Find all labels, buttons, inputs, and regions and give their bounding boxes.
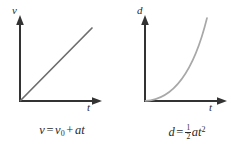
- distance-parabola-series: [146, 18, 208, 101]
- fraction-numerator: 1: [185, 124, 191, 132]
- velocity-time-plot: [0, 0, 124, 120]
- equation-term-t: t: [81, 123, 84, 137]
- kinematics-graphs-figure: v t v=v0+at d t d=12at2: [0, 0, 249, 156]
- equation-equals: =: [45, 123, 55, 137]
- y-axis-label-distance: d: [137, 5, 143, 16]
- equation-equals: =: [175, 125, 185, 139]
- y-axis-arrowhead: [16, 15, 24, 25]
- fraction-denominator: 2: [185, 132, 191, 141]
- velocity-line-series: [21, 28, 93, 101]
- x-axis-label-time: t: [209, 102, 212, 113]
- equation-velocity: v=v0+at: [0, 124, 124, 138]
- x-axis-label-time: t: [87, 102, 90, 113]
- equation-distance: d=12at2: [125, 124, 249, 141]
- distance-time-plot: [125, 0, 249, 120]
- y-axis-arrowhead: [141, 15, 149, 25]
- equation-fraction-one-half: 12: [185, 124, 192, 141]
- panel-distance-time: d t d=12at2: [125, 0, 249, 156]
- y-axis-label-velocity: v: [12, 5, 17, 16]
- equation-plus: +: [65, 123, 75, 137]
- x-axis-arrowhead: [92, 97, 102, 105]
- equation-exponent-two: 2: [201, 125, 205, 134]
- x-axis-arrowhead: [217, 97, 227, 105]
- equation-term-v: v: [55, 123, 61, 137]
- equation-lhs: d: [169, 125, 175, 139]
- panel-velocity-time: v t v=v0+at: [0, 0, 124, 156]
